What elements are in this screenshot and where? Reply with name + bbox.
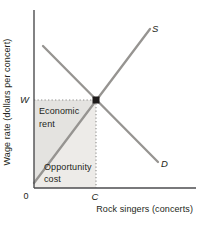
- opportunity-cost-label-line2: cost: [44, 174, 61, 184]
- demand-curve-label: D: [161, 158, 168, 169]
- y-axis-label: Wage rate (dollars per concert): [2, 39, 12, 166]
- opportunity-cost-label-line1: Opportunity: [44, 162, 92, 172]
- supply-curve-label: S: [152, 23, 159, 34]
- economic-rent-figure: Wage rate (dollars per concert) Rock sin…: [0, 0, 202, 228]
- economic-rent-label-line1: Economic: [39, 106, 80, 116]
- wage-w-label: W: [20, 94, 30, 105]
- origin-label: 0: [23, 191, 28, 201]
- x-axis-label: Rock singers (concerts): [96, 204, 193, 214]
- equilibrium-marker: [93, 97, 100, 104]
- supply-demand-chart: Wage rate (dollars per concert) Rock sin…: [0, 0, 202, 228]
- quantity-c-label: C: [92, 191, 99, 202]
- economic-rent-label-line2: rent: [39, 119, 55, 129]
